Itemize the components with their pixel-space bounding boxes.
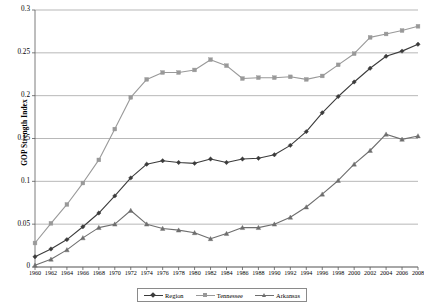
data-point-tennessee: [368, 36, 372, 40]
y-tick-label: 0.05: [17, 221, 30, 228]
x-tick-label: 1990: [268, 270, 280, 276]
data-point-tennessee: [145, 77, 149, 81]
x-tick-label: 2000: [348, 270, 360, 276]
x-tick-label: 1978: [173, 270, 185, 276]
x-tick-label: 1992: [284, 270, 296, 276]
chart-legend: RegionTennesseeArkansas: [137, 288, 307, 302]
x-tick-label: 2006: [396, 270, 408, 276]
x-tick-label: 1998: [332, 270, 344, 276]
x-tick-label: 1966: [77, 270, 89, 276]
data-point-tennessee: [177, 71, 181, 75]
legend-swatch-square-icon: [196, 292, 215, 299]
data-point-tennessee: [304, 77, 308, 81]
x-tick-label: 1970: [109, 270, 121, 276]
data-point-tennessee: [400, 29, 404, 33]
data-point-tennessee: [33, 241, 37, 245]
x-tick-label: 1996: [316, 270, 328, 276]
x-tick-label: 1972: [125, 270, 137, 276]
x-tick-label: 1974: [141, 270, 153, 276]
y-tick-label: 0.1: [21, 178, 30, 185]
legend-swatch-diamond-icon: [144, 292, 163, 299]
data-point-tennessee: [257, 76, 261, 80]
x-tick-label: 2008: [412, 270, 424, 276]
x-tick-label: 1982: [204, 270, 216, 276]
x-tick-label: 2004: [380, 270, 392, 276]
y-tick-label: 0.25: [17, 49, 30, 56]
data-point-tennessee: [209, 58, 213, 62]
data-point-tennessee: [225, 64, 229, 68]
data-point-tennessee: [49, 221, 53, 225]
legend-item-arkansas: Arkansas: [255, 292, 300, 299]
data-point-tennessee: [288, 75, 292, 79]
data-point-tennessee: [272, 76, 276, 80]
x-tick-label: 1986: [236, 270, 248, 276]
x-tick-label: 1988: [252, 270, 264, 276]
data-point-tennessee: [320, 74, 324, 78]
y-tick-label: 0.3: [21, 6, 30, 13]
data-point-tennessee: [416, 24, 420, 28]
data-point-tennessee: [193, 68, 197, 72]
data-point-tennessee: [65, 203, 69, 207]
x-tick-label: 1962: [45, 270, 57, 276]
data-point-tennessee: [336, 63, 340, 67]
data-point-tennessee: [161, 71, 165, 75]
legend-item-region: Region: [144, 292, 183, 299]
x-tick-label: 1994: [300, 270, 312, 276]
data-point-tennessee: [129, 95, 133, 99]
y-tick-label: 0.15: [17, 135, 30, 142]
x-tick-label: 1980: [188, 270, 200, 276]
x-tick-label: 1960: [29, 270, 41, 276]
x-tick-label: 1964: [61, 270, 73, 276]
data-point-tennessee: [352, 52, 356, 56]
y-axis-tick-labels: 00.050.10.150.20.250.3: [0, 0, 30, 308]
legend-label: Arkansas: [276, 292, 300, 299]
data-point-tennessee: [97, 158, 101, 162]
legend-label: Region: [165, 292, 183, 299]
data-point-tennessee: [384, 32, 388, 36]
x-tick-label: 1976: [157, 270, 169, 276]
data-point-tennessee: [81, 181, 85, 185]
data-point-tennessee: [113, 127, 117, 131]
data-point-tennessee: [241, 77, 245, 81]
legend-item-tennessee: Tennessee: [196, 292, 243, 299]
y-tick-label: 0.2: [21, 92, 30, 99]
x-tick-label: 2002: [364, 270, 376, 276]
x-tick-label: 1968: [93, 270, 105, 276]
x-tick-label: 1984: [220, 270, 232, 276]
legend-swatch-triangle-icon: [255, 292, 274, 299]
legend-label: Tennessee: [217, 292, 243, 299]
